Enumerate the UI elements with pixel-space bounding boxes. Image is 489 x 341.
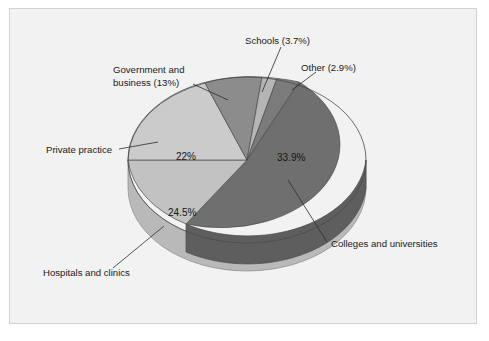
leader-line-hospitals-and-clinics: [113, 226, 164, 268]
callout-label-colleges-and-universities: Colleges and universities: [331, 238, 438, 249]
slice-value-private-practice: 22%: [176, 151, 196, 162]
callout-label-other: Other (2.9%): [301, 62, 356, 73]
callout-label-schools: Schools (3.7%): [245, 35, 310, 46]
callout-label-government-and-business-line1: Government and: [113, 64, 184, 75]
slice-value-hospitals-and-clinics: 24.5%: [168, 207, 196, 218]
callout-label-government-and-business-line2: business (13%): [113, 77, 179, 88]
callout-label-private-practice: Private practice: [46, 144, 112, 155]
pie-chart: Schools (3.7%) Other (2.9%) Government a…: [0, 0, 489, 341]
pie-top-face: [128, 77, 340, 228]
chart-page: Schools (3.7%) Other (2.9%) Government a…: [0, 0, 489, 341]
callout-label-hospitals-and-clinics: Hospitals and clinics: [43, 267, 130, 278]
slice-value-colleges-and-universities: 33.9%: [277, 152, 305, 163]
